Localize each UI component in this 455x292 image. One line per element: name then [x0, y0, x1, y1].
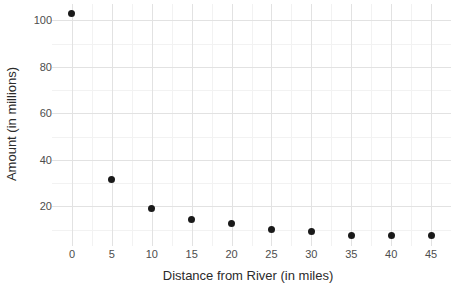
data-point [228, 220, 235, 227]
gridline-vertical-minor [291, 4, 292, 246]
x-axis-tick-label: 30 [291, 248, 331, 260]
gridline-vertical-minor [411, 4, 412, 246]
gridline-vertical-major [351, 4, 352, 246]
scatter-chart-figure: Amount (in millions) 20406080100 0510152… [0, 0, 455, 292]
gridline-vertical-major [391, 4, 392, 246]
gridline-vertical-minor [92, 4, 93, 246]
gridline-vertical-minor [172, 4, 173, 246]
x-axis-tick-label: 10 [132, 248, 172, 260]
gridline-vertical-major [192, 4, 193, 246]
gridline-vertical-minor [132, 4, 133, 246]
data-point [388, 232, 395, 239]
x-axis-tick-labels: 051015202530354045 [0, 248, 455, 268]
gridline-vertical-minor [252, 4, 253, 246]
data-point [68, 10, 75, 17]
x-axis-tick-label: 15 [172, 248, 212, 260]
gridline-vertical-major [72, 4, 73, 246]
x-axis-tick-label: 20 [212, 248, 252, 260]
gridline-vertical-major [112, 4, 113, 246]
x-axis-title: Distance from River (in miles) [48, 268, 448, 283]
y-axis-tick-label: 80 [8, 61, 52, 73]
x-axis-tick-label: 40 [371, 248, 411, 260]
gridline-vertical-major [311, 4, 312, 246]
y-axis-tick-label: 100 [8, 14, 52, 26]
y-axis-tick-label: 40 [8, 154, 52, 166]
x-axis-tick-label: 5 [92, 248, 132, 260]
data-point [148, 205, 155, 212]
gridline-vertical-minor [331, 4, 332, 246]
data-point [428, 232, 435, 239]
x-axis-tick-label: 25 [251, 248, 291, 260]
data-point [188, 216, 195, 223]
gridline-vertical-major [431, 4, 432, 246]
x-axis-tick-label: 35 [331, 248, 371, 260]
gridline-vertical-minor [371, 4, 372, 246]
data-point [348, 232, 355, 239]
x-axis-tick-label: 45 [411, 248, 451, 260]
data-point [308, 228, 315, 235]
gridline-vertical-minor [212, 4, 213, 246]
y-axis-tick-label: 60 [8, 107, 52, 119]
x-axis-tick-label: 0 [52, 248, 92, 260]
gridline-vertical-major [271, 4, 272, 246]
plot-panel [52, 4, 451, 246]
data-point [268, 226, 275, 233]
y-axis-tick-label: 20 [8, 200, 52, 212]
gridline-vertical-major [232, 4, 233, 246]
